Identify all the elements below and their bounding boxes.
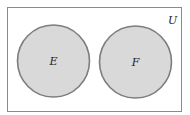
set-e-label: E: [48, 55, 57, 68]
set-f-label: F: [131, 56, 140, 69]
venn-diagram: U E F: [0, 0, 190, 115]
universe-label: U: [168, 14, 178, 27]
